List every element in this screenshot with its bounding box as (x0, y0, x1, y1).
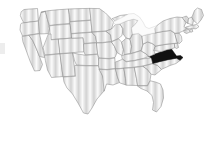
state-SD[interactable] (70, 20, 92, 33)
state-RI[interactable] (190, 29, 193, 32)
states-layer (20, 8, 204, 114)
state-AZ[interactable] (45, 54, 63, 78)
state-ME[interactable] (192, 8, 203, 24)
state-NM[interactable] (60, 53, 75, 77)
left-edge-artifact (0, 43, 5, 54)
state-IN[interactable] (122, 38, 132, 54)
state-WA[interactable] (21, 9, 39, 24)
state-MN[interactable] (90, 8, 113, 32)
us-choropleth-map: United States choropleth map Contiguous … (0, 0, 210, 142)
state-AR[interactable] (99, 58, 116, 70)
state-OR[interactable] (20, 21, 39, 36)
state-KS[interactable] (84, 43, 98, 55)
state-ND[interactable] (69, 8, 91, 21)
state-DE[interactable] (175, 43, 179, 48)
map-canvas (0, 0, 210, 142)
state-WY[interactable] (50, 24, 72, 40)
state-CO[interactable] (59, 38, 84, 54)
